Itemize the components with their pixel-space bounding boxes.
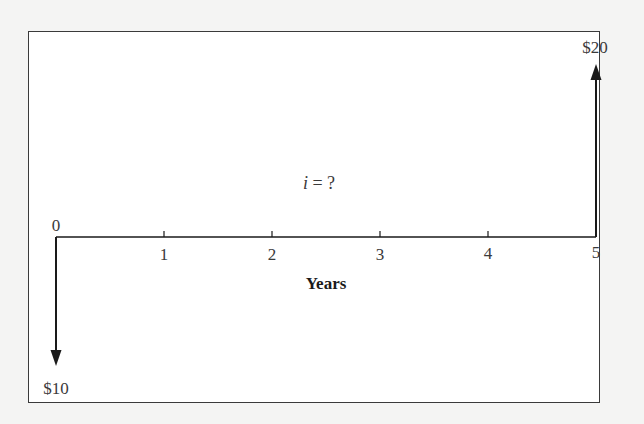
axis-title: Years	[306, 275, 347, 292]
tick-label-4: 4	[484, 245, 493, 262]
cash-outflow-arrow-icon	[51, 237, 62, 366]
interest-rate-operator: =	[308, 173, 327, 193]
cash-inflow-arrow-icon	[591, 64, 602, 237]
axis-ticks	[164, 231, 488, 237]
cash-flow-diagram	[0, 0, 644, 424]
tick-label-2: 2	[268, 246, 277, 263]
cash-flow-label-inflow: $20	[582, 39, 608, 56]
tick-label-3: 3	[376, 246, 385, 263]
cash-flow-label-outflow: $10	[43, 380, 69, 397]
interest-rate-value: ?	[327, 173, 335, 193]
tick-label-5: 5	[592, 244, 601, 261]
tick-label-0: 0	[52, 217, 61, 234]
interest-rate-label: i = ?	[303, 174, 335, 192]
tick-label-1: 1	[160, 246, 169, 263]
